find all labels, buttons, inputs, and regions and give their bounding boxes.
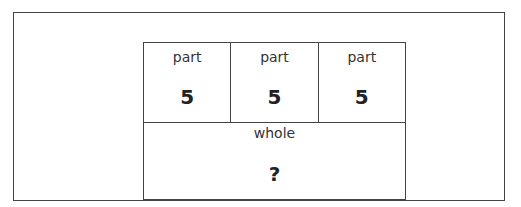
parts-row: part 5 part 5 part 5 <box>144 43 405 123</box>
part-value: 5 <box>319 85 405 109</box>
outer-frame: part 5 part 5 part 5 whole ? <box>13 12 505 201</box>
part-box-2: part 5 <box>231 43 318 122</box>
part-box-3: part 5 <box>319 43 405 122</box>
part-value: 5 <box>231 85 317 109</box>
bar-model: part 5 part 5 part 5 whole ? <box>143 42 406 200</box>
part-label: part <box>319 49 405 65</box>
part-box-1: part 5 <box>144 43 231 122</box>
part-label: part <box>231 49 317 65</box>
part-label: part <box>144 49 230 65</box>
whole-value: ? <box>144 162 405 186</box>
part-value: 5 <box>144 85 230 109</box>
whole-box: whole ? <box>144 122 405 199</box>
whole-label: whole <box>144 125 405 141</box>
